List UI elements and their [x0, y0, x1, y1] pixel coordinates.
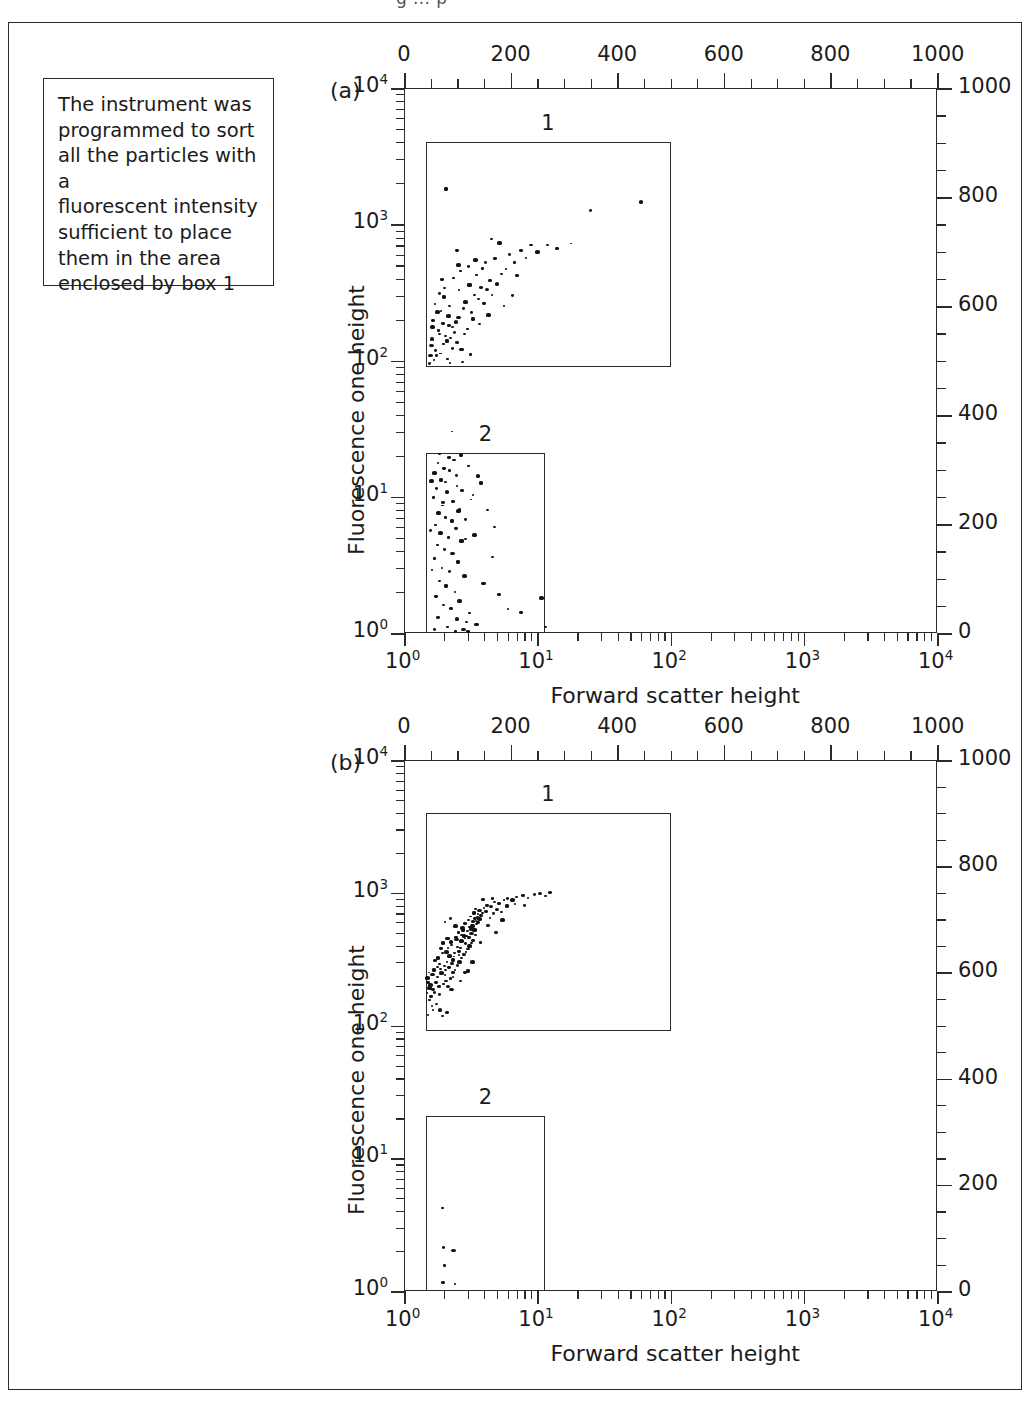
data-point: [434, 981, 438, 984]
data-point: [453, 952, 457, 955]
data-point: [426, 992, 428, 994]
data-point: [453, 924, 458, 928]
data-point: [449, 988, 454, 992]
data-point: [514, 903, 516, 905]
data-point: [457, 931, 460, 933]
data-point: [470, 960, 475, 964]
data-point: [548, 891, 552, 894]
data-point: [444, 950, 449, 954]
data-point: [459, 980, 462, 982]
data-point: [466, 948, 470, 951]
data-point: [463, 922, 467, 925]
data-point: [443, 965, 446, 967]
data-point: [467, 936, 471, 939]
data-point: [491, 897, 494, 899]
data-point: [481, 898, 485, 901]
data-point: [444, 921, 446, 923]
data-point: [432, 1009, 434, 1011]
data-point: [442, 983, 444, 985]
data-point: [459, 947, 461, 949]
data-point: [497, 902, 501, 905]
data-point: [469, 932, 474, 936]
data-point: [472, 911, 476, 914]
data-point: [436, 976, 439, 978]
data-point: [471, 939, 475, 942]
data-point: [437, 985, 441, 988]
data-point: [461, 928, 465, 931]
data-point: [442, 1246, 446, 1249]
data-point: [464, 938, 466, 940]
data-point: [474, 934, 477, 936]
data-point: [450, 962, 454, 965]
data-point: [500, 918, 505, 922]
data-point: [533, 893, 537, 896]
data-point: [447, 947, 449, 949]
data-point: [454, 1283, 456, 1285]
data-point: [426, 981, 430, 984]
data-point: [467, 919, 470, 921]
data-point: [527, 897, 529, 899]
data-point: [432, 968, 436, 971]
data-point: [450, 944, 453, 946]
data-point: [438, 993, 442, 996]
data-point: [523, 904, 527, 907]
data-point: [444, 969, 447, 971]
data-point: [445, 937, 449, 940]
data-point: [457, 950, 461, 953]
data-point: [460, 934, 463, 936]
data-point: [506, 897, 510, 900]
data-point: [466, 969, 470, 972]
data-point: [538, 892, 543, 896]
data-point: [467, 944, 472, 948]
data-point: [429, 995, 433, 998]
data-point: [492, 912, 496, 915]
data-point: [503, 899, 505, 901]
data-point: [447, 966, 451, 969]
data-point: [469, 916, 471, 918]
data-point: [495, 908, 500, 912]
data-point: [428, 999, 430, 1001]
data-point: [493, 901, 496, 903]
data-point: [451, 971, 455, 974]
data-point: [477, 917, 482, 921]
data-point: [462, 953, 466, 956]
data-point: [435, 1003, 438, 1005]
data-point: [441, 1015, 444, 1017]
data-point: [441, 941, 445, 944]
data-point: [521, 894, 525, 897]
data-point: [433, 991, 437, 994]
panel-b: (b)1001001011011021021031031041040020020…: [0, 0, 1032, 1416]
data-point: [438, 963, 440, 965]
data-point: [449, 917, 453, 920]
data-point: [433, 959, 437, 962]
data-point: [544, 895, 547, 897]
data-point: [430, 973, 435, 977]
data-point: [476, 921, 480, 924]
data-point: [484, 910, 488, 913]
data-point: [460, 957, 463, 959]
data-point: [515, 896, 518, 898]
data-point: [454, 969, 456, 971]
data-point: [453, 956, 455, 958]
data-point: [489, 917, 491, 919]
data-point: [479, 941, 482, 943]
data-point: [444, 974, 446, 976]
data-point: [457, 960, 462, 964]
data-point: [427, 1014, 429, 1016]
scatter-layer-b: [0, 0, 1032, 1416]
data-point: [431, 1005, 433, 1007]
data-point: [439, 947, 443, 950]
data-point: [456, 964, 460, 967]
data-point: [443, 1264, 446, 1266]
data-point: [444, 980, 448, 983]
data-point: [445, 1011, 449, 1014]
data-point: [456, 946, 459, 948]
data-point: [465, 951, 467, 953]
data-point: [438, 1008, 443, 1012]
data-point: [452, 976, 454, 978]
data-point: [425, 976, 430, 980]
data-point: [494, 931, 498, 934]
data-point: [446, 961, 448, 963]
data-point: [472, 928, 476, 931]
data-point: [489, 905, 494, 909]
